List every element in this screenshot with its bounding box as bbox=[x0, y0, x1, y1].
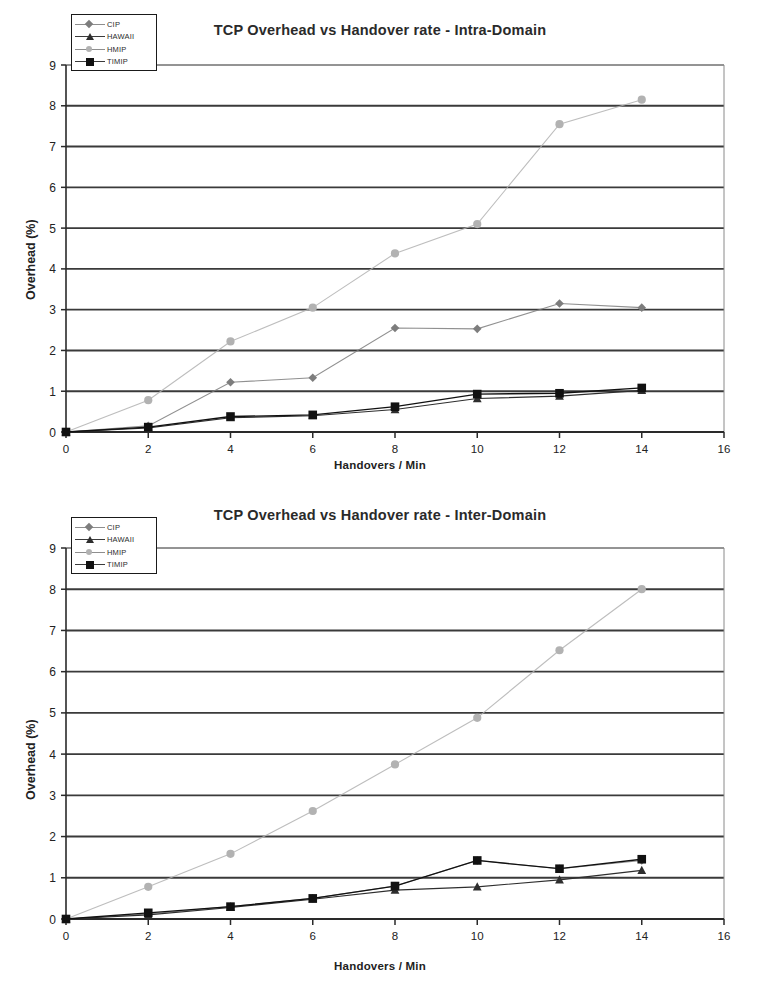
x-axis-label-inter: Handovers / Min bbox=[0, 960, 760, 972]
legend-marker-circle-icon bbox=[75, 547, 105, 558]
data-point-hmip bbox=[226, 337, 234, 345]
x-tick-label: 16 bbox=[718, 930, 731, 942]
x-tick-label: 2 bbox=[145, 443, 151, 455]
y-tick-label: 6 bbox=[49, 181, 56, 195]
x-axis-label-intra: Handovers / Min bbox=[0, 459, 760, 471]
x-tick-label: 16 bbox=[718, 443, 731, 455]
x-tick-label: 6 bbox=[310, 443, 316, 455]
y-axis-label-inter: Overhead (%) bbox=[24, 719, 38, 800]
data-point-timip bbox=[473, 856, 482, 865]
x-tick-label: 10 bbox=[471, 443, 484, 455]
legend-item-timip[interactable]: TIMIP bbox=[75, 56, 152, 69]
y-tick-label: 3 bbox=[49, 303, 56, 317]
data-point-hmip bbox=[638, 96, 646, 104]
legend-item-hawaii[interactable]: HAWAII bbox=[75, 31, 152, 44]
y-tick-label: 5 bbox=[49, 706, 56, 720]
x-tick-label: 12 bbox=[553, 443, 566, 455]
legend-marker-triangle-icon bbox=[75, 31, 105, 42]
x-tick-label: 2 bbox=[145, 930, 151, 942]
data-point-timip bbox=[555, 389, 564, 398]
y-tick-label: 8 bbox=[49, 99, 56, 113]
data-point-timip bbox=[391, 882, 400, 891]
legend-label-hmip: HMIP bbox=[107, 45, 127, 54]
legend-label-timip: TIMIP bbox=[107, 57, 128, 66]
legend-item-timip[interactable]: TIMIP bbox=[75, 559, 152, 572]
x-tick-label: 4 bbox=[227, 443, 234, 455]
legend-item-cip[interactable]: CIP bbox=[75, 18, 152, 31]
y-tick-label: 6 bbox=[49, 665, 56, 679]
plot-svg-inter: 01234567890246810121416 bbox=[0, 526, 760, 1000]
y-tick-label: 1 bbox=[49, 871, 56, 885]
x-tick-label: 4 bbox=[227, 930, 234, 942]
data-point-hmip bbox=[144, 396, 152, 404]
data-point-timip bbox=[144, 423, 153, 432]
data-point-timip bbox=[391, 402, 400, 411]
y-tick-label: 4 bbox=[49, 748, 56, 762]
y-tick-label: 8 bbox=[49, 583, 56, 597]
data-point-hmip bbox=[226, 850, 234, 858]
x-tick-label: 10 bbox=[471, 930, 484, 942]
legend-inter[interactable]: CIP HAWAII HMIP TIMIP bbox=[71, 517, 157, 574]
y-tick-label: 0 bbox=[49, 426, 56, 440]
data-point-cip bbox=[391, 324, 400, 333]
data-point-cip bbox=[637, 303, 646, 312]
legend-item-hmip[interactable]: HMIP bbox=[75, 43, 152, 56]
data-point-cip bbox=[555, 299, 564, 308]
data-point-hmip bbox=[638, 585, 646, 593]
data-point-hmip bbox=[391, 249, 399, 257]
x-tick-label: 6 bbox=[310, 930, 316, 942]
y-tick-label: 4 bbox=[49, 262, 56, 276]
data-point-timip bbox=[637, 384, 646, 393]
y-tick-label: 2 bbox=[49, 830, 56, 844]
chart-figure-intra: TCP Overhead vs Handover rate - Intra-Do… bbox=[0, 0, 760, 500]
x-tick-label: 14 bbox=[635, 930, 648, 942]
data-point-hmip bbox=[309, 304, 317, 312]
legend-label-cip: CIP bbox=[107, 20, 120, 29]
data-point-timip bbox=[637, 855, 646, 864]
legend-item-hmip[interactable]: HMIP bbox=[75, 546, 152, 559]
y-axis-label-intra: Overhead (%) bbox=[24, 219, 38, 300]
data-point-hmip bbox=[144, 883, 152, 891]
data-point-hmip bbox=[309, 807, 317, 815]
series-line-hmip bbox=[66, 100, 642, 432]
plot-area-inter: 01234567890246810121416 bbox=[0, 526, 760, 1000]
data-point-hmip bbox=[473, 220, 481, 228]
data-point-timip bbox=[62, 428, 71, 437]
legend-marker-diamond-icon bbox=[75, 19, 105, 30]
data-point-cip bbox=[226, 378, 235, 387]
data-point-hmip bbox=[555, 646, 563, 654]
x-tick-label: 8 bbox=[392, 443, 398, 455]
y-tick-label: 7 bbox=[49, 140, 56, 154]
x-tick-label: 8 bbox=[392, 930, 398, 942]
x-tick-label: 12 bbox=[553, 930, 566, 942]
data-point-hmip bbox=[473, 714, 481, 722]
legend-intra[interactable]: CIP HAWAII HMIP TIMIP bbox=[71, 14, 157, 71]
x-tick-label: 0 bbox=[63, 443, 69, 455]
legend-marker-square-icon bbox=[75, 56, 105, 67]
plot-area-intra: 01234567890246810121416 bbox=[0, 40, 760, 500]
data-point-timip bbox=[62, 915, 71, 924]
legend-marker-circle-icon bbox=[75, 44, 105, 55]
y-tick-label: 0 bbox=[49, 913, 56, 927]
y-tick-label: 7 bbox=[49, 624, 56, 638]
legend-label-hmip: HMIP bbox=[107, 548, 127, 557]
data-point-hmip bbox=[391, 760, 399, 768]
data-point-hmip bbox=[555, 120, 563, 128]
plot-svg-intra: 01234567890246810121416 bbox=[0, 40, 760, 500]
x-tick-label: 0 bbox=[63, 930, 69, 942]
data-point-timip bbox=[226, 412, 235, 421]
y-tick-label: 1 bbox=[49, 385, 56, 399]
legend-marker-triangle-icon bbox=[75, 534, 105, 545]
legend-item-cip[interactable]: CIP bbox=[75, 521, 152, 534]
legend-marker-square-icon bbox=[75, 559, 105, 570]
data-point-cip bbox=[473, 325, 482, 334]
data-point-timip bbox=[226, 902, 235, 911]
x-tick-label: 14 bbox=[635, 443, 648, 455]
y-tick-label: 3 bbox=[49, 789, 56, 803]
data-point-timip bbox=[308, 894, 317, 903]
legend-label-hawaii: HAWAII bbox=[107, 535, 134, 544]
data-point-timip bbox=[144, 909, 153, 918]
chart-figure-inter: TCP Overhead vs Handover rate - Inter-Do… bbox=[0, 488, 760, 1000]
y-tick-label: 5 bbox=[49, 222, 56, 236]
legend-item-hawaii[interactable]: HAWAII bbox=[75, 534, 152, 547]
